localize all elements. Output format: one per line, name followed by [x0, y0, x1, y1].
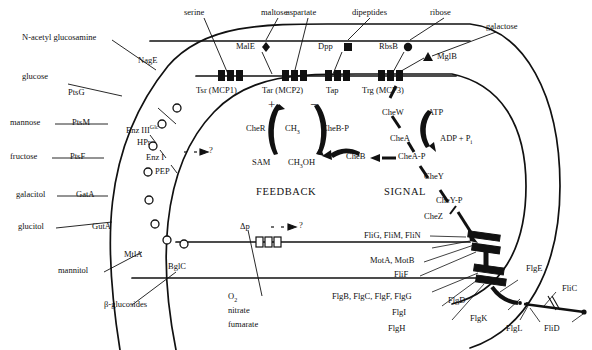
receptor-tar [282, 70, 307, 81]
ligand-aspartate: aspartate [286, 8, 316, 17]
ligand-glucitol: glucitol [18, 222, 44, 231]
adp-pi-text: ADP + P [440, 133, 470, 143]
acceptor-nitrate: nitrate [228, 306, 250, 315]
flid-cap-dot [581, 309, 586, 314]
motor-p-ring: FlgI [392, 308, 406, 317]
chemotaxis-diagram: serine maltose aspartate dipeptides ribo… [0, 0, 592, 350]
receptor-label-trg: Trg (MCP3) [362, 86, 404, 95]
junction-flgl: FlgL [506, 324, 523, 333]
acceptor-fumarate: fumarate [228, 320, 258, 329]
pts-question-mark: ? [209, 146, 213, 155]
junction-flgk: FlgK [470, 314, 487, 323]
flagellar-filament: FliC [562, 284, 577, 293]
receptor-tap [325, 70, 350, 81]
transporter-ptsm: PtsM [72, 118, 90, 127]
rbsb-circle-marker [404, 43, 412, 51]
transporter-guta: GutA [92, 222, 111, 231]
mglb-triangle-marker [423, 52, 433, 61]
diagram-vector-layer [0, 0, 592, 350]
binding-protein-markers [262, 42, 433, 61]
ligand-fructose: fructose [10, 152, 37, 161]
p-ring [474, 264, 505, 275]
dpp-square-marker [344, 43, 352, 51]
transporter-ptsf: PtsF [70, 152, 85, 161]
ligand-ribose: ribose [430, 8, 451, 17]
transporter-mtla: MtlA [124, 250, 142, 259]
proton-motive-force: Δp [240, 222, 250, 231]
ligand-dipeptides: dipeptides [352, 8, 387, 17]
motor-ms-ring: FliF [394, 270, 408, 279]
male-diamond-marker [262, 42, 270, 52]
molecule-atp: ATP [428, 108, 443, 117]
flgd-dot [518, 301, 522, 305]
enzyme-chey: CheY [424, 172, 444, 181]
enzyme-chea-p: CheA-P [398, 152, 425, 161]
l-ring [476, 275, 507, 286]
molecule-adp-pi: ADP + Pi [440, 134, 472, 145]
signal-heading: SIGNAL [384, 186, 426, 197]
ligand-maltose: maltose [261, 8, 287, 17]
enzyme-chea: CheA [390, 134, 410, 143]
motor-l-ring: FlgH [388, 324, 405, 333]
receptor-label-tsr: Tsr (MCP1) [196, 86, 237, 95]
pts-enz3-superscript: Glc [150, 124, 159, 130]
enzyme-cheb-p: CheB-P [322, 124, 349, 133]
filament-cap: FliD [544, 324, 560, 333]
ligand-galactose: galactose [486, 22, 518, 31]
metabolite-ch3oh: CH3OH [288, 158, 315, 169]
feedback-heading: FEEDBACK [256, 186, 316, 197]
ligand-serine: serine [184, 8, 204, 17]
motor-stator: MotA, MotB [370, 256, 414, 265]
ligand-n-acetyl-glucosamine: N-acetyl glucosamine [22, 33, 96, 42]
methylation-plus-sign: + [268, 98, 276, 112]
energy-question-mark: ? [299, 221, 303, 230]
enzyme-cher: CheR [246, 124, 265, 133]
enzyme-chew: CheW [382, 108, 404, 117]
pi-subscript: i [470, 139, 472, 145]
pts-pep: PEP [155, 167, 170, 176]
pts-hpr: HPr [137, 138, 151, 147]
ligand-mannose: mannose [10, 118, 40, 127]
flgk-dot [525, 302, 529, 306]
hook-cap: FlgD [448, 296, 465, 305]
inner-membrane-curve [166, 74, 526, 350]
transporter-gata: GatA [76, 190, 94, 199]
transporter-ptsg: PtsG [68, 88, 85, 97]
enzyme-chey-p: CheY-P [436, 196, 462, 205]
receptor-label-tap: Tap [326, 86, 339, 95]
receptor-label-tar: Tar (MCP2) [262, 86, 303, 95]
ligand-connectors [52, 18, 496, 305]
enzyme-cheb: CheB [346, 152, 365, 161]
binding-protein-rbsb: RbsB [379, 42, 398, 51]
hook-curve [492, 287, 518, 303]
binding-protein-male: MalE [236, 42, 255, 51]
binding-protein-mglb: MglB [437, 52, 457, 61]
ligand-glucose: glucose [22, 72, 48, 81]
ligand-beta-glucosides: β-glucosides [104, 300, 147, 309]
transporter-nage: NagE [138, 56, 157, 65]
receptor-trg [378, 70, 403, 81]
transporter-bglc: BglC [168, 262, 186, 271]
motor-rod: FlgB, FlgC, FlgF, FlgG [332, 292, 412, 301]
pts-enz3-text: Enz III [126, 125, 150, 135]
o2-subscript: 2 [234, 297, 237, 303]
flagellar-hook: FlgE [526, 264, 543, 273]
methylation-minus-sign: − [310, 98, 318, 112]
receptor-tsr [218, 70, 243, 81]
deltap-question-arrow [271, 224, 296, 230]
acceptor-o2: O2 [228, 292, 237, 303]
methyl-group: CH3 [285, 124, 300, 135]
enzyme-chez: CheZ [424, 212, 443, 221]
motor-switch-complex: FliG, FliM, FliN [364, 231, 421, 240]
ligand-mannitol: mannitol [58, 266, 88, 275]
filament-line [524, 304, 584, 312]
binding-protein-dpp: Dpp [318, 42, 333, 51]
energy-taxis-complex [256, 237, 281, 247]
pts-enz3: Enz IIIGlc [126, 124, 159, 135]
methyl-subscript: 3 [297, 129, 300, 135]
ch3oh-subscript: 3 [300, 163, 303, 169]
pts-enz1: Enz I [146, 153, 164, 162]
metabolite-sam: SAM [252, 158, 270, 167]
ligand-galacitol: galacitol [16, 190, 45, 199]
